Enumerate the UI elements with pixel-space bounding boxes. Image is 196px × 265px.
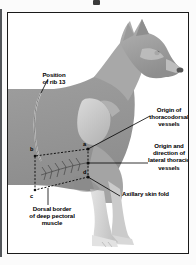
- page-text-clip-artifact: [93, 0, 100, 5]
- label-axillary-skin-fold: Axillary skin fold: [122, 190, 189, 197]
- label-lateral-thoracic: Origin and direction of lateral thoracic…: [142, 142, 189, 171]
- label-axillary-line1: Axillary skin fold: [122, 190, 189, 197]
- label-pectoral-line1: Dorsal border: [16, 205, 88, 212]
- marker-d: d: [83, 169, 86, 175]
- label-rib13: Position of rib 13: [28, 71, 80, 85]
- label-thoracodorsal-line1: Origin of: [144, 106, 189, 113]
- marker-c: c: [30, 193, 33, 199]
- figure-root: Position of rib 13 Origin of thoracodors…: [0, 0, 196, 265]
- label-thoracodorsal: Origin of thoracodorsal vessels: [144, 106, 189, 128]
- label-deep-pectoral: Dorsal border of deep pectoral muscle: [16, 205, 88, 227]
- marker-dot-c: [34, 189, 37, 192]
- label-thoracodorsal-line2: thoracodorsal: [144, 113, 189, 120]
- label-lateral-thoracic-line3: lateral thoracic: [142, 156, 189, 163]
- label-pectoral-line3: muscle: [16, 219, 88, 226]
- label-pectoral-line2: of deep pectoral: [16, 212, 88, 219]
- figure-frame: Position of rib 13 Origin of thoracodors…: [7, 12, 189, 254]
- label-lateral-thoracic-line4: vessels: [142, 164, 189, 171]
- dog-nose: [177, 67, 184, 72]
- label-lateral-thoracic-line2: direction of: [142, 149, 189, 156]
- label-rib13-line2: of rib 13: [28, 78, 80, 85]
- label-lateral-thoracic-line1: Origin and: [142, 142, 189, 149]
- marker-a: a: [83, 141, 86, 147]
- marker-dot-b: [34, 155, 37, 158]
- label-thoracodorsal-line3: vessels: [144, 120, 189, 127]
- marker-b: b: [30, 146, 33, 152]
- label-rib13-line1: Position: [28, 71, 80, 78]
